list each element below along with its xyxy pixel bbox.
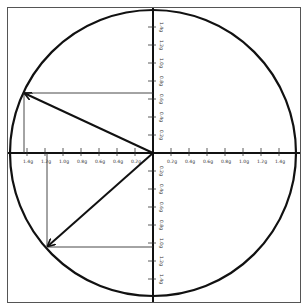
- y-tick-label: 1.0g: [159, 58, 164, 68]
- y-tick-label: 0.2g: [159, 166, 164, 176]
- y-tick-label: 0.8g: [159, 76, 164, 86]
- x-tick-label: 1.2g: [257, 159, 267, 164]
- y-tick-label: 1.2g: [159, 256, 164, 266]
- x-tick-label: 0.4g: [185, 159, 195, 164]
- x-tick-label: 1.4g: [275, 159, 285, 164]
- y-tick-label: 0.8g: [159, 220, 164, 230]
- x-tick-label: 1.2g: [41, 159, 51, 164]
- y-tick-label: 1.4g: [159, 22, 164, 32]
- x-tick-label: 0.8g: [221, 159, 231, 164]
- y-tick-label: 0.2g: [159, 130, 164, 140]
- x-tick-label: 0.8g: [77, 159, 87, 164]
- y-tick-label: 0.6g: [159, 94, 164, 104]
- x-tick-label: 1.0g: [239, 159, 249, 164]
- y-tick-label: 0.4g: [159, 184, 164, 194]
- y-tick-label: 0.4g: [159, 112, 164, 122]
- y-tick-label: 1.2g: [159, 40, 164, 50]
- x-tick-label: 1.0g: [59, 159, 69, 164]
- x-tick-label: 0.6g: [95, 159, 105, 164]
- x-tick-label: 0.2g: [131, 159, 141, 164]
- x-tick-label: 0.2g: [167, 159, 177, 164]
- x-tick-label: 0.4g: [113, 159, 123, 164]
- friction-circle-diagram: 1.4g1.2g1.0g0.8g0.6g0.4g0.2g0.2g0.4g0.6g…: [0, 0, 302, 305]
- y-tick-label: 1.4g: [159, 274, 164, 284]
- x-tick-label: 1.4g: [23, 159, 33, 164]
- y-tick-label: 1.0g: [159, 238, 164, 248]
- y-tick-label: 0.6g: [159, 202, 164, 212]
- x-tick-label: 0.6g: [203, 159, 213, 164]
